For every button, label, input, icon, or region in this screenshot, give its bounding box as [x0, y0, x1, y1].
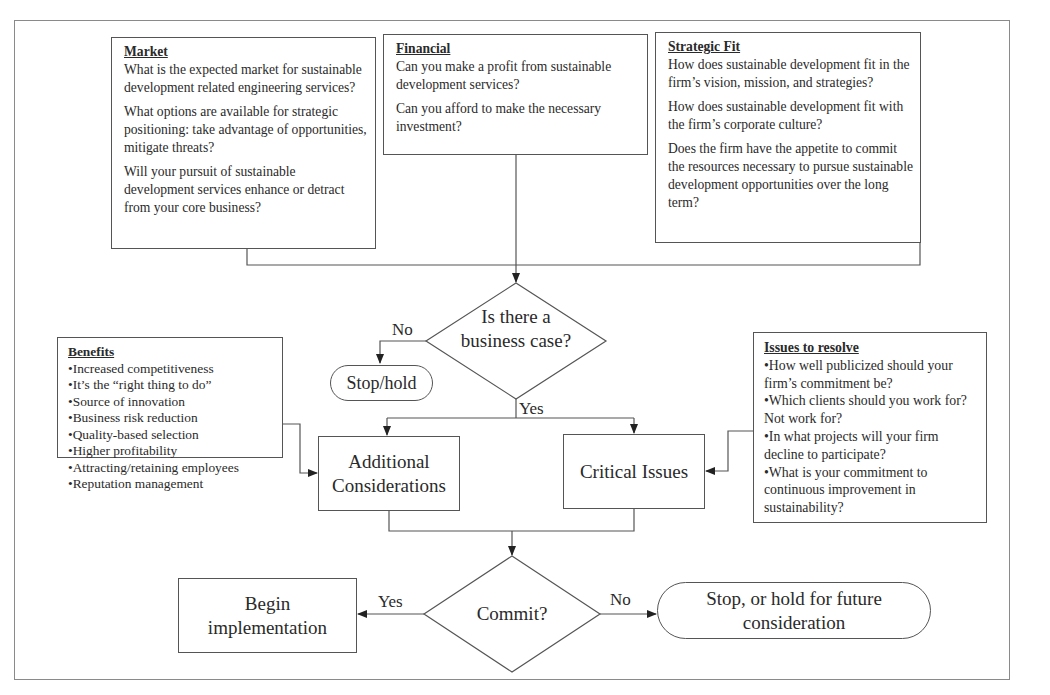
benefit-item: •Business risk reduction: [68, 410, 276, 427]
commit-decision: Commit?: [452, 602, 572, 626]
commit-yes-label: Yes: [378, 592, 403, 612]
benefit-item: •Quality-based selection: [68, 427, 276, 444]
financial-title: Financial: [396, 40, 641, 58]
market-box: Market What is the expected market for s…: [111, 37, 376, 249]
strategic-fit-question: Does the firm have the appetite to commi…: [668, 140, 914, 212]
business-case-yes-label: Yes: [519, 399, 544, 419]
market-question: Will your pursuit of sustainable develop…: [124, 163, 369, 217]
business-case-no-label: No: [392, 320, 413, 340]
market-question: What options are available for strategic…: [124, 103, 369, 157]
additional-considerations-box: Additional Considerations: [318, 436, 460, 511]
benefit-item: •Reputation management: [68, 476, 276, 493]
stop-hold-terminal: Stop/hold: [330, 365, 433, 401]
market-question: What is the expected market for sustaina…: [124, 61, 369, 97]
financial-box: Financial Can you make a profit from sus…: [383, 34, 648, 155]
begin-implementation-label: Begin implementation: [198, 592, 338, 640]
benefit-item: •It’s the “right thing to do”: [68, 377, 276, 394]
issue-item: •In what projects will your firm decline…: [764, 428, 980, 464]
strategic-fit-title: Strategic Fit: [668, 38, 914, 56]
financial-question: Can you make a profit from sustainable d…: [396, 58, 641, 94]
critical-issues-label: Critical Issues: [580, 460, 688, 484]
issues-to-resolve-box: Issues to resolve •How well publicized s…: [753, 332, 987, 523]
strategic-fit-question: How does sustainable development fit in …: [668, 56, 914, 92]
issue-item: •What is your commitment to continuous i…: [764, 464, 980, 517]
benefits-title: Benefits: [68, 344, 276, 361]
issue-item: •Which clients should you work for? Not …: [764, 392, 980, 428]
stop-future-label: Stop, or hold for future consideration: [689, 587, 899, 635]
strategic-fit-box: Strategic Fit How does sustainable devel…: [655, 32, 921, 243]
additional-considerations-label: Additional Considerations: [319, 450, 459, 498]
strategic-fit-question: How does sustainable development fit wit…: [668, 98, 914, 134]
critical-issues-box: Critical Issues: [563, 434, 705, 509]
stop-future-terminal: Stop, or hold for future consideration: [657, 582, 931, 639]
issue-item: •How well publicized should your firm’s …: [764, 357, 980, 393]
benefit-item: •Source of innovation: [68, 394, 276, 411]
benefits-box: Benefits •Increased competitiveness •It’…: [57, 337, 283, 458]
benefit-item: •Increased competitiveness: [68, 361, 276, 378]
begin-implementation-box: Begin implementation: [178, 578, 357, 653]
business-case-decision: Is there a business case?: [456, 305, 576, 353]
benefit-item: •Higher profitability: [68, 443, 276, 460]
market-title: Market: [124, 43, 369, 61]
benefit-item: •Attracting/retaining employees: [68, 460, 276, 477]
issues-title: Issues to resolve: [764, 339, 980, 357]
commit-no-label: No: [610, 590, 631, 610]
financial-question: Can you afford to make the necessary inv…: [396, 100, 641, 136]
stop-hold-label: Stop/hold: [346, 371, 416, 395]
